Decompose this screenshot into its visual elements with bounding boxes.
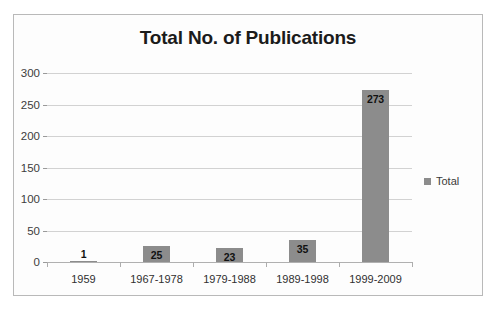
bar-1959[interactable]: 1	[70, 261, 97, 263]
bar-1967-1978[interactable]: 25	[143, 246, 170, 262]
x-axis-label-1979-1988: 1979-1988	[193, 273, 266, 285]
bar-1979-1988[interactable]: 23	[216, 248, 243, 262]
bar-value-label-1989-1998: 35	[289, 243, 316, 255]
x-axis-tick-1	[120, 262, 121, 267]
bar-value-label-1967-1978: 25	[143, 249, 170, 261]
x-axis-tick-3	[266, 262, 267, 267]
plot-area: 05010015020025030011959251967-1978231979…	[47, 73, 412, 262]
chart-title: Total No. of Publications	[14, 27, 482, 49]
gridline-50	[47, 231, 412, 232]
x-axis-tick-2	[193, 262, 194, 267]
y-axis-label-0: 0	[34, 256, 40, 268]
bar-value-label-1979-1988: 23	[216, 251, 243, 263]
x-axis-tick-5	[412, 262, 413, 267]
chart-legend: Total	[424, 175, 459, 187]
y-axis-tick-250	[43, 105, 47, 106]
gridline-100	[47, 199, 412, 200]
y-axis-tick-200	[43, 136, 47, 137]
y-axis-label-250: 250	[21, 99, 40, 111]
gridline-200	[47, 136, 412, 137]
x-axis-label-1989-1998: 1989-1998	[266, 273, 339, 285]
y-axis-label-150: 150	[21, 162, 40, 174]
y-axis-label-300: 300	[21, 67, 40, 79]
bar-value-label-1999-2009: 273	[362, 93, 389, 105]
x-axis-label-1999-2009: 1999-2009	[339, 273, 412, 285]
x-axis-label-1967-1978: 1967-1978	[120, 273, 193, 285]
y-axis-label-200: 200	[21, 130, 40, 142]
bar-1999-2009[interactable]: 273	[362, 90, 389, 262]
y-axis-tick-300	[43, 73, 47, 74]
scan-artifact-text	[60, 0, 300, 9]
y-axis-label-100: 100	[21, 193, 40, 205]
y-axis-tick-150	[43, 168, 47, 169]
chart-frame: Total No. of Publications 05010015020025…	[13, 14, 483, 296]
y-axis-tick-50	[43, 231, 47, 232]
x-axis-label-1959: 1959	[47, 273, 120, 285]
gridline-250	[47, 105, 412, 106]
x-axis-tick-0	[47, 262, 48, 267]
bar-value-label-1959: 1	[70, 248, 97, 260]
legend-swatch-total	[424, 178, 431, 185]
gridline-150	[47, 168, 412, 169]
y-axis-tick-100	[43, 199, 47, 200]
y-axis-label-50: 50	[27, 225, 40, 237]
gridline-300	[47, 73, 412, 74]
legend-label-total: Total	[436, 175, 459, 187]
bar-1989-1998[interactable]: 35	[289, 240, 316, 262]
x-axis-tick-4	[339, 262, 340, 267]
